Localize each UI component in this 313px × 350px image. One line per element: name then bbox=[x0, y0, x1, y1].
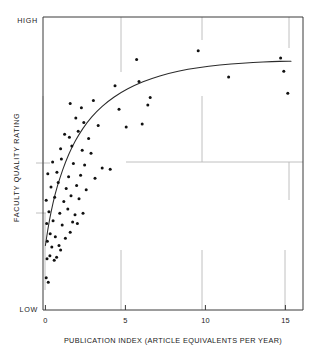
data-point bbox=[80, 106, 83, 109]
data-point bbox=[47, 210, 50, 213]
data-point bbox=[58, 212, 61, 215]
data-point bbox=[109, 168, 112, 171]
data-point bbox=[71, 221, 74, 224]
data-point bbox=[138, 80, 141, 83]
data-point bbox=[68, 136, 71, 139]
scatter-plot-figure: 051015 HIGH LOW FACULTY QUALITY RATING P… bbox=[0, 0, 313, 350]
data-point bbox=[81, 149, 84, 152]
data-point bbox=[59, 248, 62, 251]
data-point bbox=[52, 219, 55, 222]
y-axis-title: FACULTY QUALITY RATING bbox=[12, 113, 21, 222]
data-point bbox=[114, 84, 117, 87]
x-tick-label-10: 10 bbox=[201, 316, 209, 325]
data-point bbox=[279, 57, 282, 60]
data-point bbox=[82, 212, 85, 215]
x-tick-label-0: 0 bbox=[43, 316, 47, 325]
x-axis-title: PUBLICATION INDEX (ARTICLE EQUIVALENTS P… bbox=[64, 336, 282, 345]
data-point bbox=[94, 177, 97, 180]
data-point bbox=[70, 144, 73, 147]
y-axis-high-label: HIGH bbox=[17, 16, 38, 25]
x-axis-ticks bbox=[45, 305, 285, 310]
fitted-trend-curve bbox=[45, 61, 291, 245]
data-point bbox=[82, 121, 85, 124]
x-axis-tick-labels: 051015 bbox=[43, 316, 289, 325]
data-point bbox=[62, 200, 65, 203]
data-point bbox=[46, 172, 49, 175]
data-point bbox=[70, 194, 73, 197]
data-point bbox=[97, 124, 100, 127]
data-point bbox=[69, 231, 72, 234]
data-point bbox=[75, 184, 78, 187]
data-point bbox=[53, 196, 56, 199]
data-point bbox=[46, 240, 49, 243]
data-point bbox=[141, 122, 144, 125]
data-point bbox=[45, 199, 48, 202]
data-point bbox=[50, 185, 53, 188]
scan-artifact-group bbox=[36, 17, 303, 310]
data-point bbox=[61, 224, 64, 227]
x-tick-label-15: 15 bbox=[281, 316, 289, 325]
data-point bbox=[65, 187, 68, 190]
data-point bbox=[66, 207, 69, 210]
data-point bbox=[118, 108, 121, 111]
data-point bbox=[60, 158, 63, 161]
data-point bbox=[87, 137, 90, 140]
data-point bbox=[83, 163, 86, 166]
data-point bbox=[69, 102, 72, 105]
data-point bbox=[74, 213, 77, 216]
data-point bbox=[58, 244, 61, 247]
data-point bbox=[282, 70, 285, 73]
data-point bbox=[286, 92, 289, 95]
data-point bbox=[53, 259, 56, 262]
data-point bbox=[146, 103, 149, 106]
data-point bbox=[54, 235, 57, 238]
data-point bbox=[78, 197, 81, 200]
data-point bbox=[197, 49, 200, 52]
data-point bbox=[45, 276, 48, 279]
data-point bbox=[74, 117, 77, 120]
data-point bbox=[90, 152, 93, 155]
data-point bbox=[76, 222, 79, 225]
plot-canvas: 051015 HIGH LOW FACULTY QUALITY RATING P… bbox=[0, 0, 313, 350]
data-point bbox=[48, 254, 51, 257]
scatter-points bbox=[45, 49, 290, 283]
x-tick-label-5: 5 bbox=[123, 316, 127, 325]
data-point bbox=[59, 147, 62, 150]
data-point bbox=[149, 96, 152, 99]
data-point bbox=[85, 188, 88, 191]
data-point bbox=[47, 281, 50, 284]
data-point bbox=[51, 161, 54, 164]
data-point bbox=[79, 174, 82, 177]
data-point bbox=[101, 166, 104, 169]
data-point bbox=[72, 162, 75, 165]
plot-frame bbox=[43, 17, 303, 310]
data-point bbox=[67, 175, 70, 178]
data-point bbox=[63, 133, 66, 136]
data-point bbox=[64, 237, 67, 240]
y-axis-low-label: LOW bbox=[20, 305, 38, 314]
data-point bbox=[135, 58, 138, 61]
data-point bbox=[55, 171, 58, 174]
data-point bbox=[125, 125, 128, 128]
data-point bbox=[49, 232, 52, 235]
data-point bbox=[50, 246, 53, 249]
data-point bbox=[92, 99, 95, 102]
data-point bbox=[77, 130, 80, 133]
data-point bbox=[45, 222, 48, 225]
data-point bbox=[55, 256, 58, 259]
data-point bbox=[57, 181, 60, 184]
data-point bbox=[46, 257, 49, 260]
data-point bbox=[227, 76, 230, 79]
